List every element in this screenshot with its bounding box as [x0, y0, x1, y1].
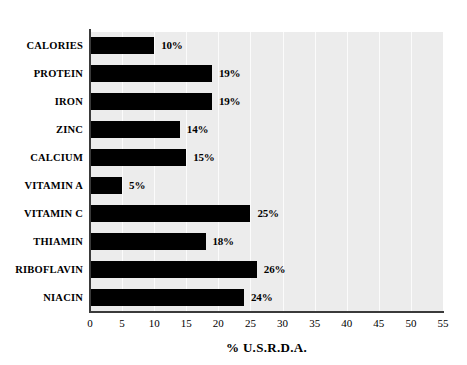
category-label: IRON: [0, 88, 83, 116]
bar-value-label: 19%: [219, 64, 240, 82]
bar: [90, 37, 154, 54]
category-label: THIAMIN: [0, 228, 83, 256]
bar: [90, 93, 212, 110]
bar-value-label: 26%: [264, 260, 285, 278]
bar-row: [90, 116, 443, 144]
category-label: VITAMIN A: [0, 172, 83, 200]
x-tick-label: 40: [332, 316, 362, 330]
bar-chart-figure: % U.S.R.D.A. 051015202530354045505510%CA…: [0, 0, 467, 365]
bar-value-label: 25%: [257, 204, 278, 222]
x-tick-label: 50: [396, 316, 426, 330]
bar: [90, 177, 122, 194]
bar: [90, 205, 250, 222]
bar-row: [90, 144, 443, 172]
category-label: CALORIES: [0, 32, 83, 60]
x-tick-label: 25: [235, 316, 265, 330]
bar-value-label: 15%: [193, 148, 214, 166]
category-label: NIACIN: [0, 284, 83, 312]
bar-row: [90, 60, 443, 88]
x-tick-label: 15: [171, 316, 201, 330]
bar: [90, 121, 180, 138]
category-label: CALCIUM: [0, 144, 83, 172]
bar-row: [90, 228, 443, 256]
category-label: VITAMIN C: [0, 200, 83, 228]
bar: [90, 65, 212, 82]
bar: [90, 233, 206, 250]
bar-row: [90, 88, 443, 116]
bar-value-label: 10%: [161, 36, 182, 54]
x-tick-label: 55: [428, 316, 458, 330]
category-label: ZINC: [0, 116, 83, 144]
x-axis-line: [89, 311, 444, 313]
bar: [90, 289, 244, 306]
x-tick-label: 5: [107, 316, 137, 330]
y-axis-line: [89, 29, 91, 313]
bar-value-label: 24%: [251, 288, 272, 306]
x-tick-label: 0: [75, 316, 105, 330]
category-label: PROTEIN: [0, 60, 83, 88]
category-label: RIBOFLAVIN: [0, 256, 83, 284]
bar: [90, 261, 257, 278]
bar: [90, 149, 186, 166]
bar-value-label: 14%: [187, 120, 208, 138]
bar-value-label: 18%: [213, 232, 234, 250]
x-tick-label: 10: [139, 316, 169, 330]
x-tick-label: 45: [364, 316, 394, 330]
x-axis-title: % U.S.R.D.A.: [90, 340, 443, 356]
bar-row: [90, 32, 443, 60]
x-tick-label: 35: [300, 316, 330, 330]
bar-value-label: 5%: [129, 176, 145, 194]
x-tick-label: 30: [268, 316, 298, 330]
x-tick-label: 20: [203, 316, 233, 330]
bar-value-label: 19%: [219, 92, 240, 110]
